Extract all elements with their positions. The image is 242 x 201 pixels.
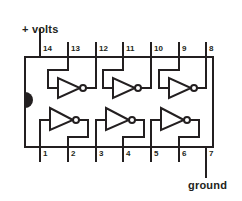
pin-number-5: 5 (154, 150, 158, 158)
pin-number-13: 13 (71, 45, 80, 53)
diagram-canvas: + volts ground 14 13 12 11 10 9 8 1 2 3 … (0, 0, 242, 201)
pin-number-3: 3 (99, 150, 103, 158)
pin-number-1: 1 (43, 150, 47, 158)
pin-number-11: 11 (126, 45, 134, 53)
pin-number-2: 2 (71, 150, 75, 158)
ground-label: ground (188, 180, 227, 191)
pin-number-6: 6 (182, 150, 186, 158)
pin-number-12: 12 (99, 45, 108, 53)
pin-number-7: 7 (209, 150, 213, 158)
pin-number-8: 8 (209, 45, 213, 53)
power-supply-label: + volts (22, 24, 59, 35)
pin-number-10: 10 (154, 45, 163, 53)
pin-number-14: 14 (43, 45, 52, 53)
pin-number-4: 4 (126, 150, 130, 158)
pin-number-9: 9 (182, 45, 186, 53)
